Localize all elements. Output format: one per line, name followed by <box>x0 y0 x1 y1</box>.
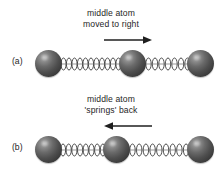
panel-a-middle-atom <box>119 50 146 77</box>
panel-a-right-atom <box>187 50 214 77</box>
panel-a-arrow-area <box>0 32 222 44</box>
panel-b-left-spring <box>60 142 106 158</box>
panel-b-right-atom <box>187 136 214 163</box>
panel-b-right-spring <box>129 142 191 158</box>
panel-a-left-spring <box>60 56 122 72</box>
panel-a-right-spring <box>145 56 191 72</box>
panel-b-middle-atom <box>103 136 130 163</box>
figure-canvas: middle atom moved to right (a) <box>0 0 222 172</box>
panel-a-left-atom <box>35 50 62 77</box>
panel-b-caption-line1: middle atom <box>0 94 222 105</box>
panel-b: middle atom 'springs' back (b) <box>0 86 222 172</box>
panel-a-caption-line2: moved to right <box>0 19 222 30</box>
panel-b-chain <box>0 130 222 170</box>
panel-b-arrow-area <box>0 118 222 130</box>
panel-a: middle atom moved to right (a) <box>0 0 222 86</box>
panel-b-caption-line2: 'springs' back <box>0 105 222 116</box>
panel-a-chain <box>0 44 222 84</box>
panel-a-caption-line1: middle atom <box>0 8 222 19</box>
panel-b-left-atom <box>35 136 62 163</box>
